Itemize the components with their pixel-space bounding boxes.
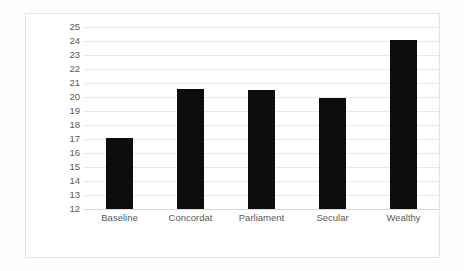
bar-concordat <box>177 89 204 209</box>
bar-baseline <box>106 138 133 209</box>
bar-parliament <box>248 90 275 209</box>
y-tick-label: 24 <box>54 36 80 46</box>
chart-plot-frame: 2524232221201918171615141312 BaselineCon… <box>25 13 440 258</box>
x-tick-label: Wealthy <box>368 212 439 223</box>
x-tick-label: Secular <box>297 212 368 223</box>
y-tick-label: 21 <box>54 78 80 88</box>
x-tick-label: Concordat <box>155 212 226 223</box>
bar-chart: Years as monarch 25242322212019181716151… <box>0 0 464 271</box>
y-tick-label: 18 <box>54 120 80 130</box>
y-tick-label: 12 <box>54 204 80 214</box>
y-tick-label: 25 <box>54 22 80 32</box>
y-tick-label: 20 <box>54 92 80 102</box>
y-tick-label: 23 <box>54 50 80 60</box>
x-tick-label: Parliament <box>226 212 297 223</box>
bar-wealthy <box>390 40 417 209</box>
y-tick-label: 13 <box>54 190 80 200</box>
y-tick-label: 14 <box>54 176 80 186</box>
y-tick-label: 19 <box>54 106 80 116</box>
y-axis-tick-labels: 2524232221201918171615141312 <box>54 14 80 259</box>
y-tick-label: 16 <box>54 148 80 158</box>
x-tick-label: Baseline <box>84 212 155 223</box>
bar-secular <box>319 98 346 209</box>
y-tick-label: 22 <box>54 64 80 74</box>
y-tick-label: 17 <box>54 134 80 144</box>
y-tick-label: 15 <box>54 162 80 172</box>
x-axis-tick-labels: BaselineConcordatParliamentSecularWealth… <box>84 212 439 234</box>
